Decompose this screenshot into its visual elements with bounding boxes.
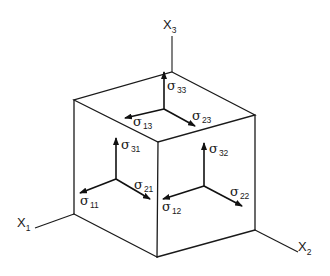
cube-edge-front-vertical — [157, 142, 158, 257]
sigma-33-label: σ33 — [167, 78, 187, 95]
x3-axis-label: X3 — [163, 17, 177, 35]
sigma-11-label: σ11 — [80, 193, 99, 210]
sigma-23-arrow — [164, 109, 195, 126]
sigma-31-label: σ31 — [121, 137, 141, 154]
sigma-11-arrow — [80, 179, 116, 193]
sigma-12-label: σ12 — [162, 199, 182, 216]
cube-edge-bottom-left — [74, 214, 157, 257]
sigma-22-label: σ22 — [230, 184, 250, 201]
x2-axis-label: X2 — [298, 239, 312, 257]
sigma-12-arrow — [163, 186, 204, 199]
x1-axis-label: X1 — [17, 215, 31, 233]
sigma-21-label: σ21 — [134, 177, 154, 194]
sigma-13-label: σ13 — [133, 114, 153, 131]
stress-cube-diagram: X3 X1 X2 σ33 σ13 σ23 σ31 σ11 σ21 σ32 σ12… — [0, 0, 330, 276]
cube-edge-bottom-right — [157, 230, 255, 257]
sigma-13-arrow — [125, 109, 164, 118]
sigma-23-label: σ23 — [192, 108, 212, 125]
sigma-32-label: σ32 — [209, 141, 229, 158]
x2-axis-line — [255, 230, 298, 252]
x1-axis-line — [35, 214, 74, 228]
